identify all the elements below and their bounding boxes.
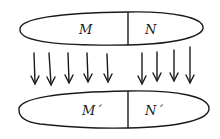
arrow-icon — [153, 52, 161, 81]
arrow-icon — [104, 54, 112, 82]
bottom-lens-shape — [19, 91, 209, 128]
arrow-icon — [47, 53, 55, 85]
label-n-prime: N´ — [144, 103, 163, 118]
arrow-icon — [65, 53, 73, 83]
arrow-icon — [186, 47, 194, 83]
arrow-group — [31, 47, 194, 85]
label-m-prime: M´ — [81, 103, 102, 118]
arrow-icon — [170, 50, 178, 81]
label-n: N — [144, 22, 157, 37]
arrow-icon — [84, 53, 92, 82]
top-lens-shape — [20, 12, 203, 45]
label-m: M — [78, 22, 93, 37]
arrow-icon — [138, 53, 146, 84]
diagram-canvas: M N M´ N´ — [0, 0, 220, 139]
arrow-icon — [31, 53, 39, 84]
